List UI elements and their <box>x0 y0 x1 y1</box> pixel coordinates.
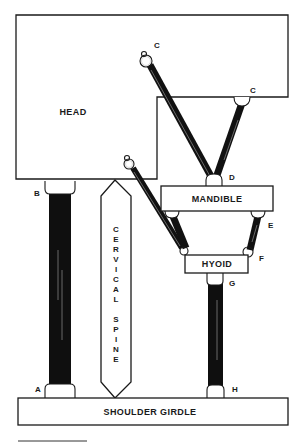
point-label-b: B <box>34 189 40 198</box>
shoulder-girdle-block: SHOULDER GIRDLE <box>18 398 288 425</box>
svg-text:C: C <box>113 275 119 284</box>
point-label-d: D <box>229 173 235 182</box>
svg-text:S: S <box>113 315 119 324</box>
point-label-a: A <box>35 385 41 394</box>
svg-text:L: L <box>114 295 119 304</box>
cervical-spine: C E R V I C A L S P I N E <box>101 180 131 398</box>
shoulder-girdle-label: SHOULDER GIRDLE <box>103 407 196 417</box>
muscle-model-diagram: HEAD C E R V I C A L S P I N E <box>0 0 304 443</box>
point-label-h: H <box>232 385 238 394</box>
svg-text:N: N <box>113 345 119 354</box>
band-a-b <box>45 181 75 398</box>
svg-text:E: E <box>113 355 119 364</box>
point-label-g: G <box>229 279 235 288</box>
band-g-h <box>207 273 224 398</box>
svg-text:A: A <box>113 285 119 294</box>
loop-d <box>206 174 222 186</box>
band-e-f <box>243 211 265 257</box>
svg-text:C: C <box>113 225 119 234</box>
hyoid-block: HYOID <box>185 255 248 273</box>
point-label-f: F <box>259 254 264 263</box>
svg-text:R: R <box>113 245 119 254</box>
mandible-block: MANDIBLE <box>161 186 273 211</box>
head-label: HEAD <box>59 107 86 117</box>
point-label-e: E <box>268 221 274 230</box>
svg-text:V: V <box>113 255 119 264</box>
band-mandible-hyoid <box>165 211 188 255</box>
svg-text:I: I <box>115 265 117 274</box>
svg-text:E: E <box>113 235 119 244</box>
point-label-c-upper: C <box>154 41 160 50</box>
mandible-label: MANDIBLE <box>192 194 243 204</box>
svg-text:P: P <box>113 325 119 334</box>
svg-text:I: I <box>115 335 117 344</box>
band-c-right-d <box>216 97 250 178</box>
point-label-c-right: C <box>250 86 256 95</box>
hyoid-label: HYOID <box>202 259 233 269</box>
